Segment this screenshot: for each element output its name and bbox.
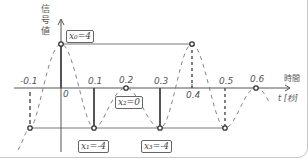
ylabel-char: 信 (40, 4, 50, 15)
tick-label: 0.2 (119, 75, 133, 85)
sample-label-x2: x₂=0 (115, 96, 143, 109)
tick-label: 0.6 (250, 74, 264, 84)
sample-point-x2 (124, 86, 128, 90)
sample-point-x5 (223, 126, 227, 130)
sample-label-x3: x₃=-4 (141, 140, 172, 153)
sample-point-x1 (92, 126, 96, 130)
sample-point-x6 (254, 86, 258, 90)
sample-point-x3 (158, 126, 162, 130)
ylabel-char: 号 (40, 15, 50, 26)
sample-point-x4 (190, 42, 194, 46)
tick-label: 0.5 (219, 76, 233, 86)
sample-label-x0: x₀=4 (66, 30, 94, 43)
sample-label-x1: x₁=-4 (78, 140, 109, 153)
value-axis-label: 信 号 値 (40, 4, 50, 37)
time-unit-label: t [秒] (278, 92, 298, 103)
tick-label: 0.4 (186, 90, 200, 100)
sample-point-x0 (59, 42, 63, 46)
tick-label: -0.1 (20, 76, 38, 86)
sample-point-neg (28, 126, 32, 130)
tick-label: 0.1 (88, 76, 102, 86)
tick-label: 0 (63, 89, 69, 99)
ylabel-char: 値 (40, 26, 50, 37)
cosine-curve (18, 44, 270, 150)
tick-label: 0.3 (154, 76, 168, 86)
time-axis-label: 時間 (284, 72, 300, 83)
